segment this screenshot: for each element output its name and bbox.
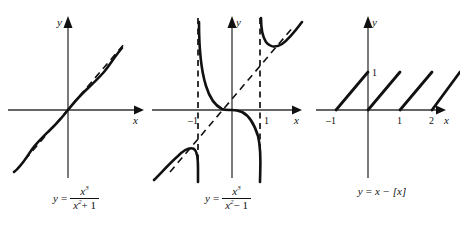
caption-denominator-panel-2: x2− 1 (222, 199, 251, 212)
x-axis-label-panel-1: x (132, 114, 138, 126)
panel-sawtooth-x-minus-floor-x: 1 –1 1 2 y x y=x − [x] (304, 0, 460, 229)
plot-area-panel-1: y x (0, 0, 152, 190)
sawtooth-segment (400, 72, 432, 110)
caption-relation-panel-3: = (363, 185, 375, 197)
sawtooth-curve-panel-3 (336, 72, 460, 110)
y-axis-panel-3 (364, 16, 373, 178)
caption-fraction-panel-2: x3x2− 1 (222, 185, 251, 211)
plot-area-panel-2: –1 1 y x (152, 0, 304, 190)
plot-area-panel-3: 1 –1 1 2 y x (304, 0, 460, 190)
curve-right-branch-panel-2 (261, 18, 302, 46)
y-axis-panel-1 (64, 16, 73, 178)
x-axis-label-panel-3: x (443, 114, 449, 126)
sawtooth-segment (432, 72, 460, 110)
curve-left-branch-panel-2 (154, 148, 198, 182)
caption-panel-2: y=x3x2− 1 (152, 186, 304, 212)
x-tick-label-neg1-panel-3: –1 (325, 115, 336, 126)
caption-rhs-panel-3: x − [x] (375, 185, 406, 197)
caption-panel-3: y=x − [x] (304, 186, 460, 197)
caption-lhs-panel-3: y (358, 185, 363, 197)
panel-x-cubed-over-x-squared-plus-one: y x y=x3x2+ 1 (0, 0, 152, 229)
three-panel-function-figure: y x y=x3x2+ 1 (0, 0, 460, 229)
caption-fraction-panel-1: x3x2+ 1 (70, 185, 99, 211)
y-tick-label-1-panel-3: 1 (372, 67, 377, 78)
caption-relation-panel-1: = (58, 192, 70, 204)
y-axis-label-panel-2: y (235, 16, 241, 28)
y-axis-label-panel-3: y (371, 16, 377, 28)
x-axis-panel-1 (8, 106, 144, 115)
caption-denominator-panel-1: x2+ 1 (70, 199, 99, 212)
x-tick-label-1-panel-3: 1 (397, 115, 402, 126)
caption-numerator-panel-2: x3 (222, 185, 251, 199)
sawtooth-segment (336, 72, 368, 110)
caption-panel-1: y=x3x2+ 1 (0, 186, 152, 212)
caption-relation-panel-2: = (210, 192, 222, 204)
x-tick-label-neg1-panel-2: –1 (187, 115, 198, 126)
x-tick-label-2-panel-3: 2 (429, 115, 434, 126)
caption-numerator-panel-1: x3 (70, 185, 99, 199)
y-axis-panel-2 (228, 16, 237, 178)
y-axis-label-panel-1: y (56, 16, 62, 28)
curve-middle-branch-panel-2 (199, 22, 261, 182)
x-axis-label-panel-2: x (293, 114, 299, 126)
x-tick-label-1-panel-2: 1 (264, 115, 269, 126)
panel-x-cubed-over-x-squared-minus-one: –1 1 y x y=x3x2− 1 (152, 0, 304, 229)
